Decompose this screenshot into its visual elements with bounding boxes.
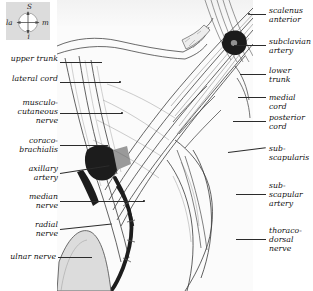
label-upper-trunk: upper trunk [0,54,58,63]
label-subscapular-artery: sub- scapular artery [269,181,313,209]
label-scalenus-anterior: scalenus anterior [269,6,313,24]
leader-posterior-cord [233,121,266,122]
label-subclavian-artery: subclavian artery [269,37,313,55]
leader-upper-trunk [60,62,102,63]
compass-lateral-label: la [6,19,13,26]
anatomy-figure: S i la m [0,0,313,291]
leader-coracobrachialis [60,145,108,146]
label-posterior-cord: posterior cord [269,113,313,131]
orientation-compass: S i la m [6,2,50,40]
label-musculocutaneous-nerve: musculo- cutaneous nerve [0,98,58,126]
label-median-nerve: median nerve [0,192,58,210]
leader-subclavian-artery [234,45,266,46]
label-lateral-cord: lateral cord [0,74,58,83]
leader-lateral-cord [60,82,120,83]
leader-musculocutaneous-nerve [60,113,122,114]
leader-lower-trunk [240,74,266,75]
leader-dot-lateral-cord [119,81,121,83]
leader-scalenus-anterior [250,14,266,15]
leader-medial-cord [238,97,266,98]
label-ulnar-nerve: ulnar nerve [0,252,56,261]
label-lower-trunk: lower trunk [269,66,313,84]
leader-dot-musculocutaneous [121,112,123,114]
leader-dot-scalenus-anterior [248,13,250,15]
label-thoracodorsal-nerve: thoraco- dorsal nerve [269,226,313,254]
leader-dot-median-nerve [143,200,145,202]
compass-superior-label: S [27,3,32,10]
label-axillary-artery: axillary artery [0,164,58,182]
compass-medial-label: m [42,19,49,26]
label-radial-nerve: radial nerve [0,220,58,238]
leader-ulnar-nerve [58,257,92,258]
compass-inferior-label: i [28,33,30,40]
leader-subscapular-artery [236,194,266,195]
leader-median-nerve [60,201,144,202]
label-subscapularis: sub- scapularis [269,144,313,162]
label-coracobrachialis: coraco- brachialis [0,136,58,154]
leader-thoracodorsal-nerve [236,239,266,240]
label-medial-cord: medial cord [269,93,313,111]
